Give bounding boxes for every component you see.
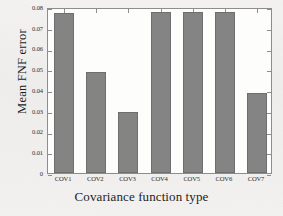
y-tick-label: 0.08: [3, 5, 43, 12]
y-tick-mark: [48, 92, 52, 93]
y-tick-label: 0.07: [3, 26, 43, 33]
y-tick-mark: [48, 9, 52, 10]
plot-area: [47, 8, 272, 174]
bar-cov6: [215, 12, 235, 173]
y-tick-label: 0.06: [3, 46, 43, 53]
y-tick-mark-right: [267, 113, 271, 114]
x-axis-title: Covariance function type: [0, 189, 283, 205]
y-tick-mark-right: [267, 51, 271, 52]
bar-cov2: [86, 72, 106, 173]
y-tick-label: 0.02: [3, 129, 43, 136]
x-tick-label-cov7: COV7: [236, 176, 276, 183]
bar-cov1: [54, 13, 74, 173]
x-tick-mark-top: [257, 9, 258, 13]
y-tick-label: 0.03: [3, 109, 43, 116]
x-tick-mark-top: [128, 9, 129, 13]
y-tick-mark: [48, 154, 52, 155]
bar-cov7: [247, 93, 267, 173]
x-tick-mark-top: [96, 9, 97, 13]
bar-cov3: [118, 112, 138, 173]
y-tick-mark: [48, 30, 52, 31]
y-tick-label: 0: [3, 171, 43, 178]
y-tick-mark: [48, 113, 52, 114]
y-tick-label: 0.01: [3, 150, 43, 157]
y-tick-mark-right: [267, 9, 271, 10]
y-tick-mark-right: [267, 154, 271, 155]
y-tick-mark: [48, 71, 52, 72]
y-tick-mark-right: [267, 71, 271, 72]
figure-canvas: Mean FNF error 00.010.020.030.040.050.06…: [0, 0, 283, 216]
y-tick-mark-right: [267, 134, 271, 135]
y-tick-label: 0.04: [3, 88, 43, 95]
y-tick-mark: [48, 134, 52, 135]
y-tick-mark: [48, 51, 52, 52]
y-tick-mark-right: [267, 92, 271, 93]
y-tick-label: 0.05: [3, 67, 43, 74]
bar-cov4: [151, 12, 171, 173]
bar-cov5: [183, 12, 203, 173]
y-tick-mark-right: [267, 30, 271, 31]
